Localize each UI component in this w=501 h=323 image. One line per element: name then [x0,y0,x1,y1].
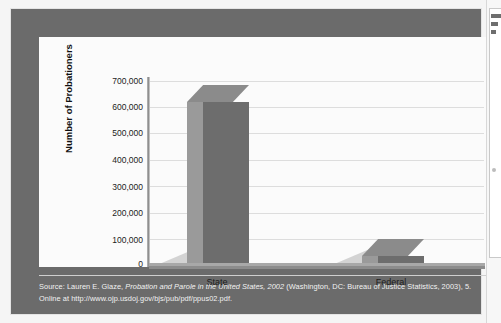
source-divider [39,275,486,276]
x-axis-floor-front [149,266,485,269]
y-axis-line [147,77,150,267]
bar-state-front-face [203,102,249,265]
y-tick-100000: 100,000 [81,236,143,245]
figure-frame: Number of Probationers 700,000 600,000 5… [10,8,482,315]
source-note: Source: Lauren E. Glaze, Probation and P… [39,281,491,304]
y-tick-400000: 400,000 [81,156,143,165]
y-tick-300000: 300,000 [81,183,143,192]
plot-area [149,81,484,265]
source-url-line: Online at http://www.ojp.usdoj.gov/bjs/p… [39,294,232,303]
y-tick-0: 0 [81,260,143,269]
y-tick-500000: 500,000 [81,129,143,138]
y-axis-title: Number of Probationers [63,34,74,164]
y-tick-600000: 600,000 [81,103,143,112]
chart-panel: Number of Probationers 700,000 600,000 5… [39,37,486,267]
bar-state-side-face [187,102,204,265]
y-axis-tick-labels: 700,000 600,000 500,000 400,000 300,000 … [77,37,143,267]
gridline-700000 [149,81,484,82]
adjacent-figure-text-lines [491,14,501,48]
source-prefix: Source: Lauren E. Glaze, [39,282,125,291]
source-publication-title: Probation and Parole in the United State… [125,282,284,291]
source-suffix: (Washington, DC: Bureau of Justice Stati… [284,282,471,291]
y-tick-200000: 200,000 [81,209,143,218]
adjacent-figure-marker [492,168,496,172]
figure-screenshot: Number of Probationers 700,000 600,000 5… [0,0,501,323]
y-tick-700000: 700,000 [81,77,143,86]
